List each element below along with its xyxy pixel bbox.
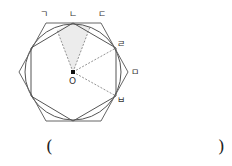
answer-blank[interactable] xyxy=(60,138,220,158)
label-b: ㅂ xyxy=(117,95,125,105)
label-n: ㄴ xyxy=(69,9,77,19)
label-d: ㄷ xyxy=(98,9,106,19)
label-center-o: O xyxy=(69,76,76,86)
label-m: ㅁ xyxy=(131,67,139,77)
center-point xyxy=(71,70,75,74)
label-g: ㄱ xyxy=(40,9,48,19)
answer-open-paren: ( xyxy=(46,136,53,156)
geometry-figure: ㄱ ㄴ ㄷ ㄹ ㅁ ㅂ O xyxy=(0,0,232,130)
label-r: ㄹ xyxy=(117,39,125,49)
answer-close-paren: ) xyxy=(218,136,225,156)
line-o-b xyxy=(73,72,116,96)
